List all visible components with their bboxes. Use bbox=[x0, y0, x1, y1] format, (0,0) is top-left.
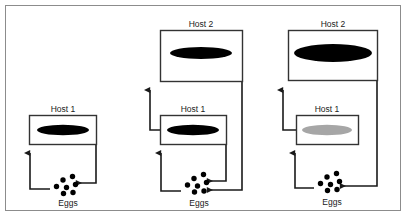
egg-dot bbox=[61, 191, 66, 196]
life-cycle-diagram: Host 1 Eggs bbox=[0, 0, 406, 221]
egg-dot bbox=[204, 180, 209, 185]
egg-dot bbox=[73, 182, 78, 187]
egg-dot bbox=[60, 177, 65, 182]
panel2-eggs-label: Eggs bbox=[189, 198, 208, 208]
egg-dot bbox=[201, 172, 206, 177]
parasite-dark-icon bbox=[170, 47, 232, 59]
panel2-host1-label: Host 1 bbox=[181, 104, 206, 114]
egg-dot bbox=[192, 189, 197, 194]
egg-dot bbox=[328, 182, 333, 187]
egg-dot bbox=[70, 190, 75, 195]
egg-dot bbox=[191, 176, 196, 181]
egg-dot bbox=[185, 182, 190, 187]
egg-dot bbox=[334, 171, 339, 176]
egg-dot bbox=[54, 184, 59, 189]
parasite-dark-icon bbox=[37, 125, 89, 135]
panel2-host1 bbox=[161, 116, 227, 145]
egg-dot bbox=[337, 179, 342, 184]
egg-dot bbox=[201, 188, 206, 193]
egg-dot bbox=[324, 174, 329, 179]
panel2-host2-label: Host 2 bbox=[189, 19, 214, 29]
panel1-eggs-label: Eggs bbox=[58, 198, 77, 208]
panel3-host2 bbox=[289, 31, 378, 81]
egg-dot bbox=[70, 174, 75, 179]
parasite-light-icon bbox=[302, 125, 352, 135]
panel3-host1 bbox=[297, 116, 359, 145]
panel3-host2-label: Host 2 bbox=[321, 19, 346, 29]
egg-dot bbox=[325, 188, 330, 193]
egg-dot bbox=[334, 187, 339, 192]
egg-dot bbox=[64, 185, 69, 190]
panel1-host1 bbox=[30, 116, 97, 145]
panel1-host1-label: Host 1 bbox=[51, 104, 76, 114]
egg-dot bbox=[318, 181, 323, 186]
parasite-dark-icon bbox=[167, 125, 219, 135]
panel3-host1-label: Host 1 bbox=[315, 104, 340, 114]
parasite-dark-icon bbox=[294, 44, 372, 62]
panel2-host2 bbox=[161, 31, 243, 82]
egg-dot bbox=[195, 183, 200, 188]
panel3-eggs-label: Eggs bbox=[322, 197, 341, 207]
